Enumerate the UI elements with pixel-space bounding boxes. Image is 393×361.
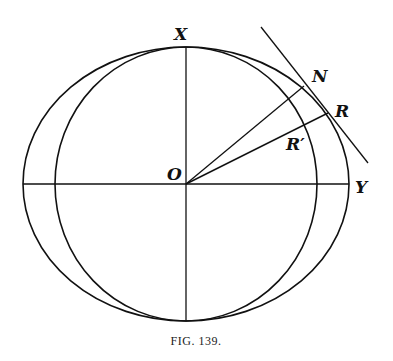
label-Y: Y <box>355 177 369 197</box>
top-text-fragment <box>30 0 32 7</box>
diagram-figure-139: X Y O N R R′ FIG. 139. <box>0 0 393 361</box>
figure-caption: FIG. 139. <box>171 334 222 348</box>
label-R-prime: R′ <box>285 134 305 154</box>
line-O-R <box>186 113 328 184</box>
label-R: R <box>334 101 349 121</box>
tangent-line <box>261 27 368 163</box>
label-X: X <box>173 24 188 44</box>
label-N: N <box>311 66 329 86</box>
label-O: O <box>167 164 182 184</box>
